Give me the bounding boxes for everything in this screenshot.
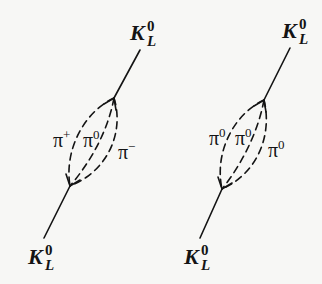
pion-symbol: π [83,129,93,151]
kaon-superscript: 0 [299,17,307,32]
right-bottom-kaon-label: K 0 L [184,246,199,268]
right-top-kaon-line [264,48,290,100]
right-bottom-kaon-line [200,189,222,238]
kaon-superscript: 0 [201,243,209,258]
pion-symbol: π [53,129,63,151]
right-top-arrow-icon [254,100,266,112]
kaon-superscript: 0 [147,19,155,34]
left-bottom-kaon-line [44,186,70,238]
kaon-symbol: K [282,18,297,43]
pion-charge: 0 [219,125,226,140]
pion-charge: 0 [93,127,100,142]
left-pion-zero-label: π0 [83,130,100,150]
left-pion-plus-label: π+ [53,130,70,150]
left-top-kaon-line [114,50,140,98]
kaon-symbol: K [184,244,199,269]
pion-symbol: π [268,139,278,161]
kaon-symbol: K [130,20,145,45]
right-pion-zero-label-2: π0 [235,128,252,148]
pion-charge: 0 [278,137,285,152]
right-pion-zero-label-3: π0 [268,140,285,160]
kaon-symbol: K [28,244,43,269]
kaon-subscript: L [201,258,210,273]
pion-symbol: π [118,141,128,163]
pion-charge: + [63,127,70,142]
kaon-superscript: 0 [45,243,53,258]
pion-charge: 0 [245,125,252,140]
right-top-kaon-label: K 0 L [282,20,297,42]
pion-symbol: π [209,127,219,149]
left-top-kaon-label: K 0 L [130,22,145,44]
pion-charge: − [128,139,135,154]
kaon-subscript: L [147,34,156,49]
pion-symbol: π [235,127,245,149]
kaon-subscript: L [299,32,308,47]
right-pion-zero-label-1: π0 [209,128,226,148]
left-top-arrow-icon [104,98,116,110]
left-pion-minus-label: π− [118,142,135,162]
left-bottom-kaon-label: K 0 L [28,246,43,268]
kaon-subscript: L [45,258,54,273]
